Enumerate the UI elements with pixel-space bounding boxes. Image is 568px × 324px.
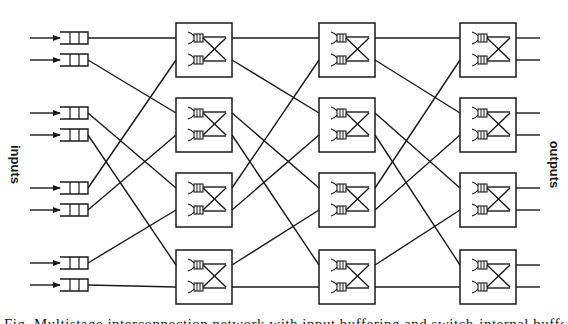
- interstage-wire: [375, 60, 460, 113]
- interstage-wire: [375, 135, 460, 265]
- 2x2-crossbar-switch-icon: [460, 250, 516, 304]
- fifo-buffer-icon: [60, 257, 88, 269]
- 2x2-crossbar-switch-icon: [319, 98, 375, 152]
- interstage-wire: [232, 60, 319, 113]
- 2x2-crossbar-switch-icon: [176, 23, 232, 77]
- fifo-buffer-icon: [60, 204, 88, 216]
- fifo-buffer-icon: [60, 129, 88, 141]
- fifo-buffer-icon: [60, 32, 88, 44]
- 2x2-crossbar-switch-icon: [460, 23, 516, 77]
- outputs-label: outputs: [547, 141, 562, 189]
- fifo-buffer-icon: [60, 182, 88, 194]
- fifo-buffer-icon: [60, 107, 88, 119]
- fifo-buffer-icon: [60, 279, 88, 291]
- 2x2-crossbar-switch-icon: [460, 173, 516, 227]
- 2x2-crossbar-switch-icon: [319, 173, 375, 227]
- input-to-stage1-wire: [88, 285, 176, 287]
- inputs-label: inputs: [8, 145, 23, 184]
- interstage-wire: [232, 135, 319, 265]
- 2x2-crossbar-switch-icon: [176, 98, 232, 152]
- interconnection-network-diagram: [0, 0, 568, 324]
- interstage-wire: [232, 210, 319, 265]
- 2x2-crossbar-switch-icon: [176, 250, 232, 304]
- input-to-stage1-wire: [88, 135, 176, 210]
- input-to-stage1-wire: [88, 210, 176, 263]
- input-to-stage1-wire: [88, 135, 176, 265]
- 2x2-crossbar-switch-icon: [176, 173, 232, 227]
- 2x2-crossbar-switch-icon: [319, 250, 375, 304]
- figure-caption: Fig. Multistage interconnection network …: [4, 313, 564, 324]
- 2x2-crossbar-switch-icon: [319, 23, 375, 77]
- interstage-wire: [375, 210, 460, 265]
- 2x2-crossbar-switch-icon: [460, 98, 516, 152]
- input-to-stage1-wire: [88, 60, 176, 113]
- fifo-buffer-icon: [60, 54, 88, 66]
